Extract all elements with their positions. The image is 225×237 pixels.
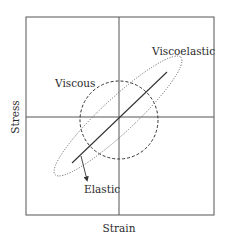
viscoelastic-label: Viscoelastic xyxy=(151,45,215,57)
y-axis-label: Stress xyxy=(9,100,21,133)
elastic-pointer-arrow-icon xyxy=(81,156,87,180)
elastic-label: Elastic xyxy=(84,183,120,195)
viscoelastic-curve xyxy=(44,45,193,187)
viscous-label: Viscous xyxy=(54,77,96,89)
diagram-svg: Viscoelastic Viscous Elastic Strain Stre… xyxy=(0,0,225,237)
stress-strain-diagram: Viscoelastic Viscous Elastic Strain Stre… xyxy=(0,0,225,237)
x-axis-label: Strain xyxy=(103,222,136,234)
